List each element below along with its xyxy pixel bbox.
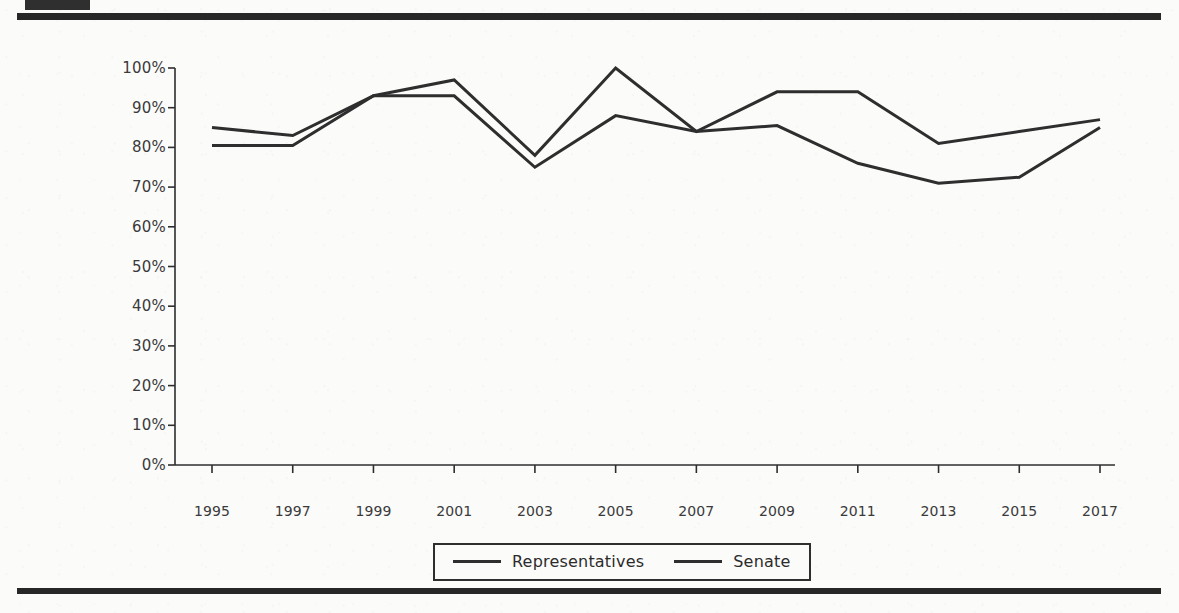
chart-legend: RepresentativesSenate (433, 543, 811, 581)
horizontal-rule-bottom (17, 588, 1161, 594)
axes (168, 68, 1115, 473)
legend-item: Senate (674, 552, 790, 571)
page-header-block (25, 0, 90, 10)
legend-item-label: Representatives (512, 552, 644, 571)
series-line-senate (212, 68, 1100, 155)
data-series-group (212, 68, 1100, 183)
legend-line-swatch-icon (453, 560, 501, 563)
scanned-page: 0%10%20%30%40%50%60%70%80%90%100% 199519… (0, 0, 1179, 613)
legend-item: Representatives (453, 552, 644, 571)
legend-item-label: Senate (733, 552, 790, 571)
horizontal-rule-top (17, 13, 1161, 20)
plot-canvas (0, 22, 1179, 522)
line-chart: 0%10%20%30%40%50%60%70%80%90%100% 199519… (0, 22, 1179, 582)
legend-line-swatch-icon (674, 560, 722, 563)
